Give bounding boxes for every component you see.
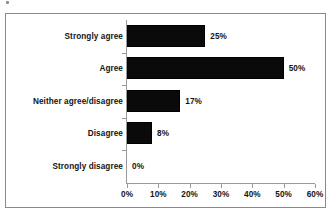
- x-axis-tick-label: 40%: [244, 190, 261, 199]
- y-axis-tick: [122, 53, 126, 54]
- bar-rows: Strongly agree25%Agree50%Neither agree/d…: [6, 14, 325, 207]
- x-axis-tick-label: 10%: [150, 190, 167, 199]
- category-label: Strongly disagree: [52, 161, 123, 170]
- bar-value-label: 0%: [132, 161, 144, 170]
- y-axis-tick: [122, 118, 126, 119]
- bar-value-label: 8%: [157, 129, 169, 138]
- bar-row: Neither agree/disagree17%: [6, 85, 325, 116]
- y-axis-tick: [122, 150, 126, 151]
- bar-row: Agree50%: [6, 53, 325, 84]
- category-label: Disagree: [88, 129, 123, 138]
- x-axis-tick: [252, 184, 253, 188]
- bar-row: Strongly disagree0%: [6, 150, 325, 181]
- x-axis-tick: [315, 184, 316, 188]
- bar: [127, 57, 284, 79]
- bar-value-label: 17%: [185, 96, 202, 105]
- bar-row: Disagree8%: [6, 118, 325, 149]
- bar: [127, 25, 205, 47]
- x-axis-tick: [158, 184, 159, 188]
- x-axis-tick: [221, 184, 222, 188]
- x-axis-tick: [190, 184, 191, 188]
- x-axis-tick-label: 0%: [121, 190, 133, 199]
- scan-artifact-speck: [6, 1, 9, 4]
- x-axis-tick-label: 20%: [181, 190, 198, 199]
- bar-value-label: 50%: [289, 64, 306, 73]
- category-label: Neither agree/disagree: [33, 96, 123, 105]
- y-axis-tick: [122, 85, 126, 86]
- x-axis-tick-label: 50%: [275, 190, 292, 199]
- category-label: Strongly agree: [65, 31, 123, 40]
- bar-value-label: 25%: [210, 31, 227, 40]
- chart-frame: Strongly agree25%Agree50%Neither agree/d…: [5, 13, 326, 208]
- bar: [127, 90, 180, 112]
- x-axis-tick-label: 60%: [307, 190, 324, 199]
- plot-area: Strongly agree25%Agree50%Neither agree/d…: [6, 14, 325, 207]
- x-axis-tick: [127, 184, 128, 188]
- chart-screenshot: Strongly agree25%Agree50%Neither agree/d…: [0, 0, 333, 218]
- x-axis-tick-label: 30%: [213, 190, 230, 199]
- bar-row: Strongly agree25%: [6, 20, 325, 51]
- x-axis-tick: [284, 184, 285, 188]
- category-label: Agree: [99, 64, 123, 73]
- bar: [127, 122, 152, 144]
